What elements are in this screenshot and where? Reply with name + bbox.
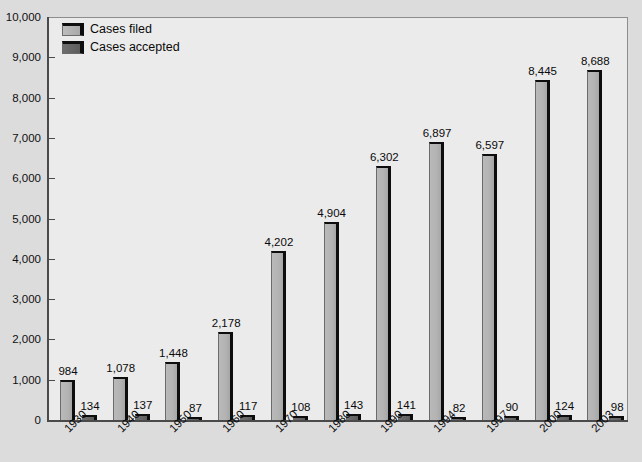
bar-value-label: 117 [239,400,257,412]
bar-value-label: 143 [344,399,363,411]
bar-group: 6,302141 [376,17,416,420]
bar-value-label: 6,597 [475,139,504,151]
bar-filed-1970 [271,251,286,420]
bar-filed-1940 [113,377,128,420]
legend-swatch-filed [62,23,84,36]
bar-value-label: 6,897 [423,127,452,139]
bar-group: 2,178117 [218,17,258,420]
y-axis-tick-label: 3,000 [0,293,41,305]
x-axis-labels: 1930194019501960197019801990199419972000… [48,422,628,462]
bar-filed-1950 [165,362,180,420]
y-axis-tick-label: 2,000 [0,333,41,345]
legend-item-accepted: Cases accepted [62,38,212,56]
legend-label: Cases filed [90,22,152,36]
bar-filed-1980 [324,222,339,420]
y-axis-tick-label: 0 [0,414,41,426]
bar-value-label: 8,445 [528,65,557,77]
legend: Cases filedCases accepted [62,20,212,56]
bar-value-label: 4,202 [265,236,294,248]
bar-group: 6,59790 [482,17,522,420]
bar-value-label: 984 [58,365,77,377]
bar-group: 8,445124 [535,17,575,420]
bar-group: 6,89782 [429,17,469,420]
y-axis-tick-label: 7,000 [0,132,41,144]
y-axis-tick-label: 6,000 [0,172,41,184]
bar-filed-1997 [482,154,497,420]
bar-chart: 10,0009,0008,0007,0006,0005,0004,0003,00… [0,0,642,462]
bar-value-label: 8,688 [581,55,610,67]
bar-group: 8,68898 [587,17,627,420]
y-axis-tick-label: 8,000 [0,92,41,104]
bar-group: 1,078137 [113,17,153,420]
bar-value-label: 141 [397,399,416,411]
bar-filed-2000 [535,80,550,420]
bar-value-label: 98 [611,401,624,413]
y-axis-tick-label: 5,000 [0,213,41,225]
bar-value-label: 1,448 [159,347,188,359]
bar-value-label: 134 [80,400,99,412]
bar-value-label: 2,178 [212,317,241,329]
legend-label: Cases accepted [90,40,180,54]
bar-filed-1990 [376,166,391,420]
y-axis-tick-label: 1,000 [0,374,41,386]
bar-value-label: 4,904 [317,207,346,219]
bar-group: 4,904143 [324,17,364,420]
bar-filed-2003 [587,70,602,420]
legend-item-filed: Cases filed [62,20,212,38]
legend-swatch-accepted [62,41,84,54]
bar-value-label: 87 [189,402,202,414]
bar-group: 1,44887 [165,17,205,420]
bar-value-label: 1,078 [106,362,135,374]
bar-filed-1960 [218,332,233,420]
bar-group: 4,202108 [271,17,311,420]
bar-filed-1994 [429,142,444,420]
bars-layer: 9841341,0781371,448872,1781174,2021084,9… [48,17,628,420]
y-axis-tick-label: 4,000 [0,253,41,265]
bar-value-label: 90 [505,401,518,413]
bar-value-label: 6,302 [370,151,399,163]
y-axis-tick-label: 10,000 [0,11,41,23]
bar-value-label: 137 [133,399,152,411]
y-axis-tick-label: 9,000 [0,51,41,63]
bar-group: 984134 [60,17,100,420]
